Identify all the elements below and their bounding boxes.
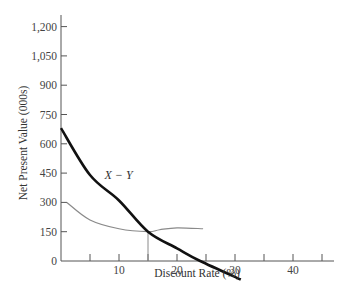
y-tick-label: 1,050	[31, 50, 57, 63]
y-tick-label: 900	[40, 79, 58, 91]
y-tick-label: 1,200	[31, 21, 57, 34]
y-tick-label: 300	[40, 196, 58, 208]
x-tick-label: 40	[287, 264, 299, 276]
x-minus-y-curve	[61, 128, 241, 279]
series-label-x-minus-y: X − Y	[104, 168, 134, 182]
y-tick-label: 600	[40, 138, 58, 150]
y-tick-label: 0	[51, 255, 57, 267]
y-axis-label: Net Present Value (000s)	[17, 86, 30, 201]
y-tick-label: 750	[40, 109, 58, 121]
x-axis-label: Discount Rate (%)	[154, 267, 240, 280]
x-tick-label: 10	[113, 264, 125, 276]
y-ticks: 01503004506007509001,0501,200	[31, 21, 67, 267]
y-tick-label: 450	[40, 167, 58, 179]
npv-chart: 01503004506007509001,0501,200 10203040 X…	[0, 0, 351, 301]
y-tick-label: 150	[40, 226, 58, 238]
